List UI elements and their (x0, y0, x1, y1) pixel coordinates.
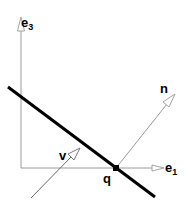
e1-axis (21, 165, 164, 171)
e1-label: e1 (165, 160, 177, 177)
point-q-marker (113, 165, 119, 171)
plane-line (8, 87, 155, 197)
v-label: v (59, 148, 67, 163)
e3-axis (18, 17, 25, 168)
e3-label: e3 (21, 15, 33, 32)
e1-arrowhead-icon (152, 165, 164, 171)
normal-vector (116, 94, 175, 168)
q-label: q (103, 171, 111, 186)
direction-vector (31, 148, 80, 198)
diagram-canvas: e3 e1 n v q (0, 0, 189, 207)
n-label: n (160, 81, 168, 96)
